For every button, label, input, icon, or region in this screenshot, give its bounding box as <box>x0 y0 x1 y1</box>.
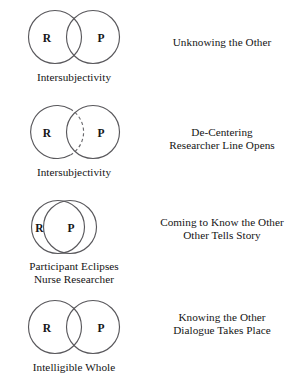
description-line: Coming to Know the Other <box>148 216 296 229</box>
researcher-circle-label: R <box>43 127 52 139</box>
participant-circle <box>67 11 120 64</box>
description-line: De-Centering <box>148 126 296 139</box>
participant-circle-label: P <box>97 127 104 139</box>
participant-circle-label: P <box>97 322 104 334</box>
description-line: Dialogue Takes Place <box>148 324 296 337</box>
venn-diagram-de-centering: R P <box>14 101 134 163</box>
description-line: Researcher Line Opens <box>148 139 296 152</box>
diagram-column-knowing: R P Intelligible Whole <box>0 296 148 374</box>
caption-line: Intelligible Whole <box>0 361 148 374</box>
caption-coming-to-know: Participant Eclipses Nurse Researcher <box>0 260 148 285</box>
participant-circle <box>67 301 120 354</box>
description-knowing: Knowing the Other Dialogue Takes Place <box>148 311 296 337</box>
description-line: Knowing the Other <box>148 311 296 324</box>
description-coming-to-know: Coming to Know the Other Other Tells Sto… <box>148 216 296 242</box>
venn-diagram-knowing: R P <box>14 296 134 358</box>
description-unknowing: Unknowing the Other <box>148 36 296 49</box>
participant-circle-label: P <box>67 222 74 234</box>
participant-circle-label: P <box>97 32 104 44</box>
researcher-circle-label: R <box>35 222 44 234</box>
caption-line: Participant Eclipses <box>0 260 148 273</box>
diagram-column-unknowing: R P Intersubjectivity <box>0 6 148 84</box>
description-line: Other Tells Story <box>148 229 296 242</box>
description-line: Unknowing the Other <box>148 36 296 49</box>
caption-line: Nurse Researcher <box>0 273 148 286</box>
diagram-column-coming-to-know: R P Participant Eclipses Nurse Researche… <box>0 196 148 285</box>
caption-knowing: Intelligible Whole <box>0 361 148 374</box>
caption-unknowing: Intersubjectivity <box>0 71 148 84</box>
description-de-centering: De-Centering Researcher Line Opens <box>148 126 296 152</box>
researcher-circle-label: R <box>43 32 52 44</box>
venn-diagram-unknowing: R P <box>14 6 134 68</box>
caption-line: Intersubjectivity <box>0 71 148 84</box>
caption-de-centering: Intersubjectivity <box>0 166 148 179</box>
diagram-column-de-centering: R P Intersubjectivity <box>0 101 148 179</box>
researcher-circle-label: R <box>43 322 52 334</box>
venn-progression-figure: R P Intersubjectivity Unknowing the Othe… <box>0 0 296 390</box>
venn-diagram-coming-to-know: R P <box>14 196 134 258</box>
caption-line: Intersubjectivity <box>0 166 148 179</box>
participant-circle <box>67 106 120 159</box>
